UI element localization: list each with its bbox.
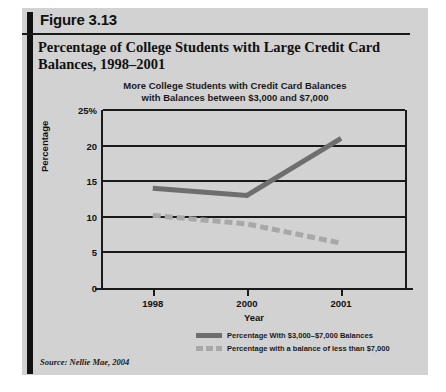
series-lines <box>45 110 415 325</box>
x-axis-tick <box>247 290 249 296</box>
chart-title: More College Students with Credit Card B… <box>60 80 410 104</box>
chart-plot-wrapper: Percentage 0510152025% Year 199820002001 <box>45 110 415 325</box>
legend-item[interactable]: Percentage With $3,000–$7,000 Balances <box>196 330 390 341</box>
source-note: Source: Nellie Mae, 2004 <box>40 357 129 367</box>
x-axis-tick-label: 1998 <box>123 298 183 309</box>
figure-spine-bar <box>27 12 33 374</box>
chart-legend: Percentage With $3,000–$7,000 BalancesPe… <box>196 330 390 356</box>
legend-swatch-icon <box>196 346 222 351</box>
legend-swatch-icon <box>196 333 222 338</box>
header-divider <box>22 33 410 35</box>
legend-label: Percentage With $3,000–$7,000 Balances <box>227 331 373 340</box>
chart-title-line-2: with Balances between $3,000 and $7,000 <box>60 92 410 104</box>
x-axis-tick <box>341 290 343 296</box>
x-axis-tick <box>153 290 155 296</box>
x-axis-tick-label: 2000 <box>217 298 277 309</box>
figure-title: Percentage of College Students with Larg… <box>38 39 420 73</box>
x-axis-tick-label: 2001 <box>311 298 371 309</box>
series-line-2 <box>153 215 341 243</box>
legend-label: Percentage with a balance of less than $… <box>227 344 390 353</box>
chart-title-line-1: More College Students with Credit Card B… <box>60 80 410 92</box>
figure-number: Figure 3.13 <box>40 11 117 28</box>
legend-item[interactable]: Percentage with a balance of less than $… <box>196 343 390 354</box>
series-line-1 <box>153 138 341 195</box>
